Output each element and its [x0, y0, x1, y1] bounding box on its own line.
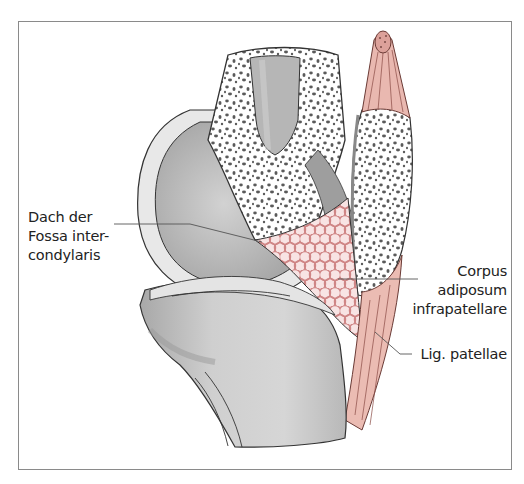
label-line: adiposum: [412, 281, 507, 300]
label-line: Fossa inter-: [28, 227, 109, 246]
tibia: [140, 276, 346, 447]
label-line: Corpus: [412, 262, 507, 281]
label-line: condylaris: [28, 246, 109, 265]
quadriceps-tendon: [362, 31, 410, 118]
label-line: Lig. patellae: [421, 345, 508, 364]
patella: [352, 108, 413, 296]
label-patellar-ligament: Lig. patellae: [421, 345, 508, 364]
label-line: infrapatellare: [412, 300, 507, 319]
label-roof-intercondylar-fossa: Dach der Fossa inter- condylaris: [28, 208, 109, 265]
label-line: Dach der: [28, 208, 109, 227]
label-fat-pad: Corpus adiposum infrapatellare: [412, 262, 507, 319]
